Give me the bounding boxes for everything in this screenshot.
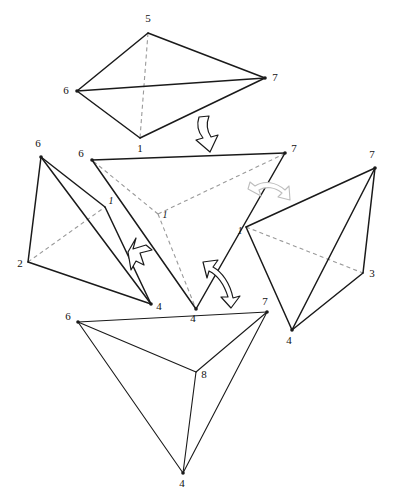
tetrahedron-6-7-8-4: 6 7 8 4	[65, 295, 269, 489]
vertex-dot-4	[181, 471, 185, 475]
edge-6-4	[41, 157, 151, 304]
arrow-left-curved-faded	[248, 182, 290, 200]
vertex-label-4: 4	[179, 477, 185, 489]
vertex-dot-6	[75, 89, 79, 93]
edge-6-7	[78, 312, 267, 322]
edge-7-4	[183, 312, 267, 473]
vertex-label-2: 2	[17, 257, 23, 269]
edge-5-6	[77, 33, 148, 91]
edge-6-2	[28, 157, 41, 262]
vertex-dot-4	[149, 302, 153, 306]
vertex-dot-4	[290, 328, 294, 332]
vertex-label-1: 1	[163, 209, 168, 220]
vertex-label-6: 6	[63, 84, 69, 96]
edge-6-4	[92, 160, 196, 309]
edge-7-3	[363, 168, 375, 273]
vertex-label-7: 7	[291, 142, 297, 154]
vertex-dot-4	[194, 307, 198, 311]
vertex-label-5: 5	[145, 12, 151, 24]
tetrahedron-diagram: 5 6 7 1 6 7 4 1	[0, 0, 395, 504]
edge-6-1	[77, 91, 140, 138]
vertex-label-6: 6	[65, 310, 71, 322]
edge-5-7	[148, 33, 265, 78]
vertex-label-4: 4	[286, 334, 292, 346]
edge-7-1	[246, 168, 375, 227]
vertex-dot-6	[76, 320, 80, 324]
vertex-label-8: 8	[201, 368, 207, 380]
vertex-dot-7	[373, 166, 377, 170]
vertex-label-6: 6	[78, 147, 84, 159]
tetrahedron-6-2-4-1: 6 2 4 1	[17, 137, 162, 312]
vertex-label-6: 6	[35, 137, 41, 149]
arrow-up-left-curved	[203, 260, 240, 308]
vertex-label-7: 7	[272, 71, 278, 83]
edge-1-4	[246, 227, 292, 330]
tetrahedron-5-6-7-1: 5 6 7 1	[63, 12, 278, 154]
hidden-edge-2-1	[28, 207, 105, 262]
vertex-label-4: 4	[190, 312, 196, 324]
arrow-up-right-to-center	[128, 238, 152, 270]
edge-6-7	[92, 153, 285, 160]
vertex-label-4: 4	[156, 300, 162, 312]
vertex-dot-6	[90, 158, 94, 162]
edge-7-4	[292, 168, 375, 330]
edge-3-4	[292, 273, 363, 330]
vertex-dot-7	[283, 151, 287, 155]
vertex-dot-6	[39, 155, 43, 159]
vertex-label-7: 7	[262, 295, 268, 307]
vertex-label-7: 7	[369, 148, 375, 160]
vertex-label-3: 3	[369, 267, 375, 279]
vertex-label-1: 1	[238, 225, 243, 236]
figure-canvas: 5 6 7 1 6 7 4 1	[0, 0, 395, 504]
edge-7-8	[196, 312, 267, 372]
vertex-dot-7	[265, 310, 269, 314]
edge-8-4	[183, 372, 196, 473]
vertex-dot-7	[263, 76, 267, 80]
vertex-label-1: 1	[137, 142, 143, 154]
vertex-label-1: 1	[109, 195, 114, 206]
arrow-down-to-center	[196, 116, 218, 152]
tetrahedron-7-1-3-4: 7 1 3 4	[238, 148, 377, 346]
edge-6-7	[77, 78, 265, 91]
